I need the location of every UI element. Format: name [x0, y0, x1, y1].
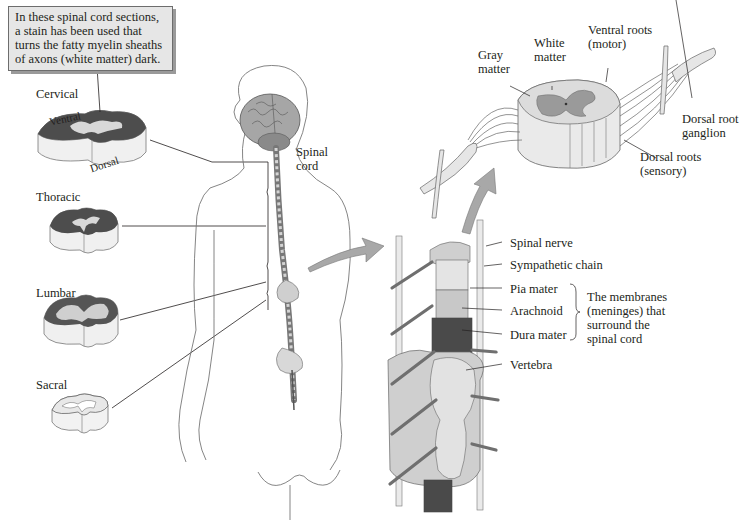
vertebral-column	[388, 220, 498, 512]
right-ganglion-nerve	[672, 48, 716, 82]
label-sympathetic-chain: Sympathetic chain	[510, 258, 603, 272]
diagram-artwork	[0, 0, 744, 520]
label-vertebra: Vertebra	[510, 358, 552, 372]
label-arachnoid: Arachnoid	[510, 304, 563, 318]
callout-line: In these spinal cord sections,	[15, 10, 167, 24]
label-dorsal-roots: Dorsal roots (sensory)	[640, 150, 701, 178]
label-white-matter: White matter	[534, 36, 566, 64]
spinal-cord-diagram: In these spinal cord sections, a stain h…	[0, 0, 744, 520]
callout-line: of axons (white matter) dark.	[15, 52, 167, 66]
arrow-to-column	[308, 238, 384, 272]
section-leader-lines	[96, 52, 268, 408]
spine	[276, 148, 303, 410]
callout-line: a stain has been used that	[15, 24, 167, 38]
cross-section-cord	[518, 80, 620, 168]
label-dorsal-root-ganglion: Dorsal root ganglion	[682, 112, 739, 140]
thoracic-section	[50, 208, 118, 253]
label-meninges-note: The membranes (meninges) that surround t…	[587, 290, 667, 346]
brain	[240, 94, 300, 151]
left-ganglion-nerve	[420, 143, 477, 194]
label-cervical: Cervical	[36, 87, 78, 101]
label-sacral: Sacral	[36, 378, 67, 392]
label-lumbar: Lumbar	[36, 286, 76, 300]
stain-callout: In these spinal cord sections, a stain h…	[8, 6, 173, 71]
label-spinal-cord: Spinal cord	[296, 145, 328, 173]
label-gray-matter: Gray matter	[478, 48, 510, 76]
label-thoracic: Thoracic	[36, 190, 80, 204]
label-pia-mater: Pia mater	[510, 282, 558, 296]
label-ventral-roots: Ventral roots (motor)	[588, 23, 652, 51]
sacral-section	[52, 394, 108, 433]
callout-line: turns the fatty myelin sheaths	[15, 38, 167, 52]
lumbar-section	[44, 295, 118, 347]
label-spinal-nerve: Spinal nerve	[510, 236, 573, 250]
label-dura-mater: Dura mater	[510, 328, 567, 342]
